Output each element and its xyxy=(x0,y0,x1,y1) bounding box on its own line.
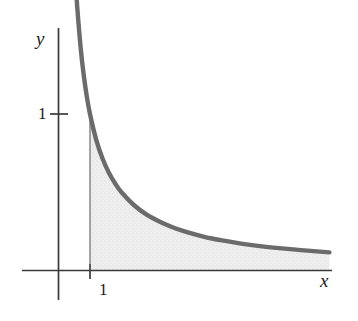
figure-canvas: y x 1 1 xyxy=(0,0,358,321)
shaded-region-under-curve xyxy=(90,114,329,271)
y-axis-label: y xyxy=(36,29,44,48)
y-axis-tick-label-1: 1 xyxy=(38,105,47,122)
x-axis-label: x xyxy=(320,271,328,290)
x-axis-tick-label-1: 1 xyxy=(99,281,108,298)
graph-plot-area xyxy=(0,0,358,321)
